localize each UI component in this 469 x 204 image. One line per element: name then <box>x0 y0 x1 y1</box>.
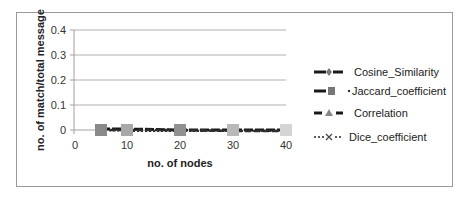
legend-item-correlation: Correlation <box>314 107 408 119</box>
legend-label: Jaccard_coefficient <box>352 85 446 97</box>
x-axis-title: no. of nodes <box>147 157 212 169</box>
legend-item-cosine: Cosine_Similarity <box>314 66 439 78</box>
y-axis-title: no. of match/total message <box>34 9 46 151</box>
chart: 0.4 0.3 0.2 0.1 0 0 10 20 30 40 no. of n… <box>0 0 469 204</box>
y-tick-label: 0.1 <box>51 99 66 111</box>
legend: Cosine_Similarity Jaccard_coefficient Co… <box>314 66 446 143</box>
data-point-marker <box>280 124 292 136</box>
legend-label: Dice_coefficient <box>349 131 426 143</box>
x-tick-label: 20 <box>174 139 186 151</box>
square-marker-icon <box>328 87 335 95</box>
x-tick-label: 10 <box>121 139 133 151</box>
y-tick-label: 0.3 <box>51 49 66 61</box>
y-tick-label: 0.2 <box>51 74 66 86</box>
y-tick-label: 0 <box>60 124 66 136</box>
x-tick-label: 40 <box>280 139 292 151</box>
y-tick-label: 0.4 <box>51 24 66 36</box>
legend-label: Cosine_Similarity <box>354 66 439 78</box>
legend-label: Correlation <box>354 107 408 119</box>
legend-item-jaccard: Jaccard_coefficient <box>314 85 446 97</box>
x-marker-icon <box>326 134 332 140</box>
gridlines <box>74 30 286 105</box>
diamond-marker-icon <box>326 68 332 76</box>
x-tick-label: 0 <box>72 139 78 151</box>
data-point-marker <box>95 124 107 136</box>
data-point-marker <box>121 124 133 136</box>
data-point-marker <box>227 124 239 136</box>
x-tick-label: 30 <box>227 139 239 151</box>
data-point-marker <box>174 124 186 136</box>
triangle-marker-icon <box>325 109 333 116</box>
legend-item-dice: Dice_coefficient <box>314 131 427 143</box>
